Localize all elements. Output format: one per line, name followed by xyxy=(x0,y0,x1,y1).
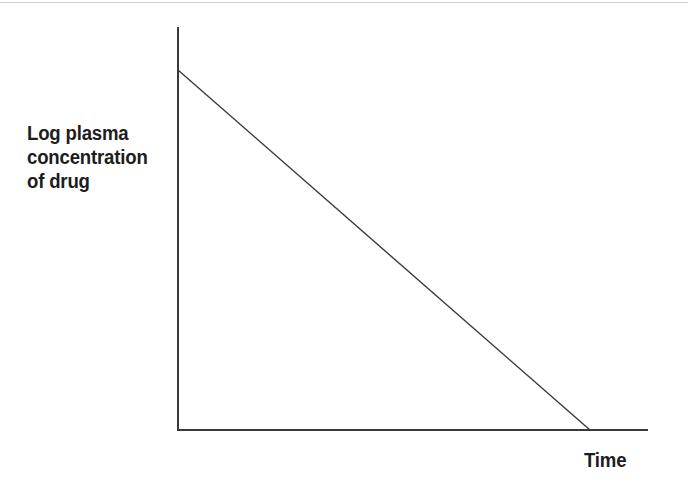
x-axis-label: Time xyxy=(584,448,626,472)
plot-area xyxy=(0,0,688,488)
figure-container: Log plasma concentration of drug Time xyxy=(0,0,688,488)
y-axis-label: Log plasma concentration of drug xyxy=(27,121,167,193)
data-line-log-concentration xyxy=(178,70,590,430)
